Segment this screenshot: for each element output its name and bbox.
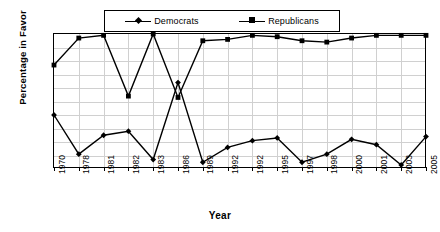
data-point-republicans: [399, 33, 404, 38]
data-point-republicans: [200, 38, 205, 43]
data-point-republicans: [275, 34, 280, 39]
data-point-republicans: [225, 37, 230, 42]
series-line-democrats: [54, 83, 426, 165]
chart-container: Democrats Republicans Percentage in Favo…: [0, 0, 440, 232]
data-point-republicans: [349, 36, 354, 41]
data-point-republicans: [424, 33, 429, 38]
y-axis-title: Percentage in Favor: [17, 0, 28, 123]
data-series-layer: [54, 34, 427, 169]
data-point-republicans: [300, 38, 305, 43]
plot-area: 0102030405060708090100 19701978198119821…: [53, 33, 426, 168]
legend-item-republicans: Republicans: [239, 16, 319, 26]
legend-item-democrats: Democrats: [125, 16, 198, 26]
series-line-republicans: [54, 34, 426, 97]
data-point-republicans: [126, 94, 131, 99]
democrats-line-marker-icon: [125, 16, 151, 26]
data-point-republicans: [250, 33, 255, 38]
data-point-republicans: [52, 63, 57, 68]
x-tick-label: 2005: [430, 155, 439, 174]
republicans-line-marker-icon: [239, 16, 265, 26]
data-point-republicans: [151, 32, 156, 37]
data-point-republicans: [374, 33, 379, 38]
legend-label-republicans: Republicans: [268, 16, 319, 26]
data-point-democrats: [250, 138, 256, 144]
x-axis-title: Year: [0, 210, 440, 221]
data-point-democrats: [175, 80, 181, 86]
data-point-republicans: [324, 40, 329, 45]
data-point-republicans: [101, 33, 106, 38]
data-point-republicans: [176, 95, 181, 100]
legend-label-democrats: Democrats: [154, 16, 198, 26]
data-point-republicans: [76, 36, 81, 41]
chart-legend: Democrats Republicans: [104, 10, 340, 32]
